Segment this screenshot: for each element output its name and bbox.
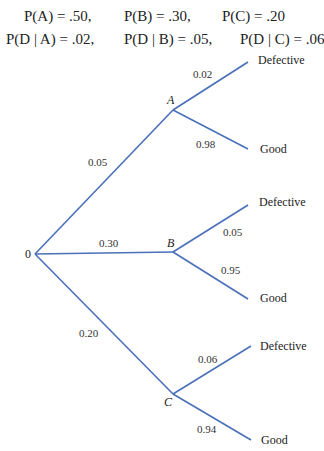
prob-b-defective: 0.05 (223, 226, 243, 238)
prob-a-good: 0.98 (196, 138, 216, 150)
leaf-b-defective: Defective (259, 195, 306, 209)
node-c: C (164, 395, 173, 409)
prob-root-b: 0.30 (99, 237, 119, 249)
node-b: B (167, 236, 175, 250)
prob-c-good: 0.94 (197, 423, 217, 435)
leaf-a-defective: Defective (258, 53, 305, 67)
prob-root-c: 0.20 (79, 327, 99, 339)
prob-root-a: 0.05 (88, 156, 108, 168)
node-a: A (166, 93, 175, 107)
leaf-a-good: Good (260, 142, 287, 156)
edge-root-a (35, 110, 173, 254)
leaf-c-good: Good (261, 433, 288, 447)
edge-root-b (35, 252, 173, 254)
leaf-c-defective: Defective (260, 339, 307, 353)
edge-root-c (35, 254, 173, 394)
root-label: 0 (25, 247, 31, 261)
tree-edges (35, 62, 251, 440)
leaf-b-good: Good (260, 291, 287, 305)
prob-c-defective: 0.06 (198, 353, 218, 365)
prob-b-good: 0.95 (221, 264, 241, 276)
prob-a-defective: 0.02 (193, 68, 212, 80)
